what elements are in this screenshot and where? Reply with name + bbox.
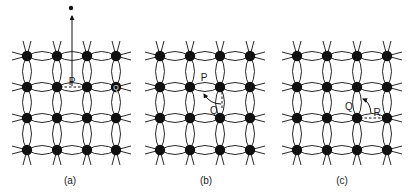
- atom: [322, 113, 332, 123]
- atom: [22, 82, 32, 92]
- site-label-q: Q: [210, 105, 218, 116]
- panel-caption-a: (a): [64, 175, 76, 186]
- panel-caption-c: (c): [336, 175, 348, 186]
- atom: [52, 51, 62, 61]
- atom: [245, 82, 255, 92]
- atom: [245, 51, 255, 61]
- atom: [111, 113, 121, 123]
- atom: [82, 51, 92, 61]
- atom: [292, 145, 302, 155]
- atom: [185, 82, 195, 92]
- atom: [352, 51, 362, 61]
- atom: [322, 51, 332, 61]
- atom: [22, 51, 32, 61]
- atom: [155, 113, 165, 123]
- atom: [185, 145, 195, 155]
- figure-canvas: PQ(a)PQ(b)QR(c): [0, 0, 410, 193]
- atom: [215, 145, 225, 155]
- atom: [155, 145, 165, 155]
- atom: [111, 145, 121, 155]
- atom: [111, 51, 121, 61]
- atom: [155, 51, 165, 61]
- atom: [292, 113, 302, 123]
- atom: [382, 51, 392, 61]
- panel-a: PQ(a): [12, 6, 131, 186]
- curved-arrow-icon: [363, 99, 371, 113]
- atom: [155, 82, 165, 92]
- atom: [322, 82, 332, 92]
- site-label-p: P: [69, 76, 76, 87]
- atoms: [155, 51, 255, 155]
- site-label-q: Q: [345, 101, 353, 112]
- panel-b: PQ(b): [145, 41, 265, 186]
- atom: [352, 82, 362, 92]
- panel-c: QR(c): [282, 41, 402, 186]
- atom: [245, 113, 255, 123]
- atom: [22, 145, 32, 155]
- atom: [82, 113, 92, 123]
- atom: [22, 113, 32, 123]
- site-label-r: R: [373, 107, 380, 118]
- atom: [185, 51, 195, 61]
- atom: [215, 82, 225, 92]
- atom: [352, 145, 362, 155]
- site-label-q: Q: [113, 84, 119, 92]
- atom: [292, 82, 302, 92]
- atom: [292, 51, 302, 61]
- atom: [215, 51, 225, 61]
- atom: [245, 145, 255, 155]
- panel-caption-b: (b): [200, 175, 212, 186]
- atom: [322, 145, 332, 155]
- atom: [185, 113, 195, 123]
- site-label-p: P: [201, 72, 208, 83]
- atoms: [292, 51, 392, 155]
- atom: [382, 82, 392, 92]
- curved-arrow-icon: [204, 94, 221, 104]
- lattice-diffusion-figure: PQ(a)PQ(b)QR(c): [0, 0, 410, 193]
- escaped-atom: [69, 6, 73, 10]
- atom: [52, 145, 62, 155]
- atom: [382, 145, 392, 155]
- atom: [82, 145, 92, 155]
- atom: [52, 113, 62, 123]
